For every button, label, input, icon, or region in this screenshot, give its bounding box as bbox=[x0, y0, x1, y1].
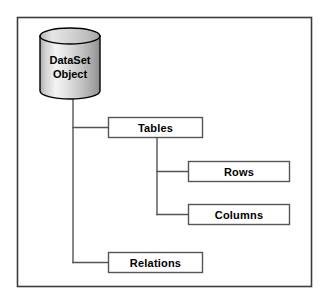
cylinder-body bbox=[40, 36, 100, 99]
node-box-relations[interactable] bbox=[109, 253, 203, 273]
node-box-rows[interactable] bbox=[189, 162, 290, 182]
node-box-columns[interactable] bbox=[189, 205, 290, 225]
node-box-tables[interactable] bbox=[109, 118, 203, 138]
cylinder-top-ellipse bbox=[40, 28, 100, 44]
diagram-graphic bbox=[0, 0, 329, 299]
diagram-canvas: DataSet Object Tables Rows Columns Relat… bbox=[0, 0, 329, 299]
dataset-object-cylinder[interactable] bbox=[40, 28, 100, 99]
